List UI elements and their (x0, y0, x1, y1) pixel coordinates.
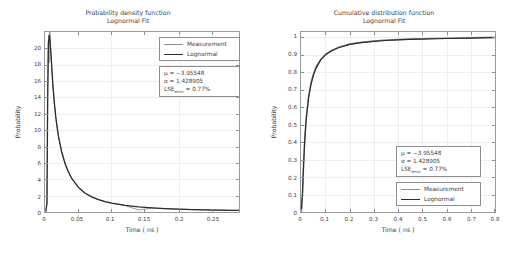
pdf-yaxis-label: Probability (14, 106, 21, 139)
cdf-ytick-right (492, 142, 495, 143)
pdf-legend-label: Lognormal (187, 51, 218, 57)
cdf-yticklabel: 0.4 (279, 139, 297, 145)
cdf-ytick-right (492, 177, 495, 178)
pdf-ytick (45, 147, 48, 148)
cdf-ytick (301, 195, 304, 196)
pdf-param-lse-sub: error (174, 89, 183, 94)
cdf-ytick-right (492, 125, 495, 126)
line-swatch-icon (401, 199, 420, 200)
lognormal-fit-figure: Probability density function Lognormal F… (0, 0, 512, 253)
pdf-xticklabel: 0 (42, 216, 46, 222)
pdf-xtick-top (212, 32, 213, 35)
cdf-yticklabel: 0.8 (279, 69, 297, 75)
cdf-xtick (374, 209, 375, 212)
pdf-param-sigma: σ = 1.428905 (160, 77, 239, 85)
pdf-panel: Probability density function Lognormal F… (0, 0, 256, 253)
pdf-xticklabel: 0.1 (106, 216, 115, 222)
pdf-param-lse-prefix: LSE (164, 86, 174, 92)
cdf-legend-row-lognormal: Lognormal (397, 194, 480, 204)
cdf-yticklabel: 0.3 (279, 157, 297, 163)
pdf-ytick (45, 179, 48, 180)
cdf-xticklabel: 0.7 (467, 216, 476, 222)
cdf-xtick-top (471, 32, 472, 35)
cdf-xtick (447, 209, 448, 212)
pdf-yticklabel: 4 (25, 177, 41, 183)
pdf-yticklabel: 20 (25, 45, 41, 51)
pdf-yticklabel: 14 (25, 94, 41, 100)
pdf-yticklabel: 6 (25, 160, 41, 166)
pdf-xticklabel: 0.15 (138, 216, 150, 222)
pdf-yticklabel: 0 (25, 210, 41, 216)
cdf-ytick (301, 160, 304, 161)
pdf-param-mu: μ = −3.95548 (160, 69, 239, 77)
cdf-xtick-top (422, 32, 423, 35)
cdf-xaxis-label: Time ( ns ) (381, 226, 414, 233)
pdf-xtick (111, 209, 112, 212)
cdf-param-mu: μ = −3.95548 (397, 149, 480, 157)
cdf-yticklabel: 0.6 (279, 104, 297, 110)
cdf-xtick-top (325, 32, 326, 35)
pdf-title-line1: Probability density function (85, 9, 170, 16)
cdf-yticklabel: 0.1 (279, 192, 297, 198)
cdf-legend[interactable]: Measurement Lognormal (396, 182, 481, 206)
line-swatch-icon (401, 189, 420, 190)
cdf-ytick (301, 212, 304, 213)
cdf-xticklabel: 0.6 (443, 216, 452, 222)
cdf-ytick-right (492, 195, 495, 196)
cdf-parameter-box[interactable]: μ = −3.95548 σ = 1.428905 LSEerror = 0.7… (396, 146, 481, 177)
pdf-title-line2: Lognormal Fit (0, 17, 256, 25)
pdf-ytick-right (236, 114, 239, 115)
pdf-xtick (212, 209, 213, 212)
cdf-xticklabel: 0 (298, 216, 302, 222)
cdf-xticklabel: 0.5 (418, 216, 427, 222)
pdf-xticklabel: 0.2 (175, 216, 184, 222)
line-swatch-icon (164, 44, 183, 45)
pdf-ytick (45, 114, 48, 115)
cdf-legend-label: Measurement (424, 186, 464, 192)
pdf-xtick-top (111, 32, 112, 35)
cdf-xtick (398, 209, 399, 212)
pdf-yticklabel: 12 (25, 111, 41, 117)
cdf-param-lse-value: = 0.77% (421, 166, 447, 172)
pdf-legend[interactable]: Measurement Lognormal (159, 37, 240, 61)
pdf-ytick (45, 163, 48, 164)
pdf-param-lse: LSEerror = 0.77% (160, 85, 239, 94)
pdf-ytick (45, 81, 48, 82)
cdf-xtick-top (447, 32, 448, 35)
pdf-xtick-top (179, 32, 180, 35)
cdf-param-lse-prefix: LSE (401, 166, 411, 172)
cdf-yticklabel: 1 (279, 33, 297, 39)
pdf-ytick-right (236, 163, 239, 164)
cdf-xticklabel: 0.8 (491, 216, 500, 222)
cdf-yticklabel: 0.2 (279, 175, 297, 181)
cdf-ytick (301, 177, 304, 178)
cdf-xtick (325, 209, 326, 212)
cdf-yticklabel: 0 (279, 210, 297, 216)
pdf-ytick (45, 48, 48, 49)
cdf-xtick-top (374, 32, 375, 35)
pdf-parameter-box[interactable]: μ = −3.95548 σ = 1.428905 LSEerror = 0.7… (159, 66, 240, 97)
cdf-param-lse-sub: error (411, 169, 420, 174)
cdf-yticklabel: 0.5 (279, 122, 297, 128)
cdf-title-line1: Cumulative distribution function (334, 9, 434, 16)
cdf-xticklabel: 0.1 (320, 216, 329, 222)
pdf-series-lognormal (46, 35, 239, 212)
cdf-ytick (301, 90, 304, 91)
cdf-ytick-right (492, 37, 495, 38)
cdf-xtick (350, 209, 351, 212)
pdf-ytick-right (236, 179, 239, 180)
cdf-ytick-right (492, 72, 495, 73)
cdf-legend-row-measurement: Measurement (397, 184, 480, 194)
cdf-xtick (422, 209, 423, 212)
pdf-xticklabel: 0.05 (71, 216, 83, 222)
cdf-ytick-right (492, 160, 495, 161)
cdf-yaxis-label: Probability (270, 106, 277, 139)
cdf-xticklabel: 0.4 (394, 216, 403, 222)
pdf-legend-row-lognormal: Lognormal (160, 49, 239, 59)
cdf-ytick (301, 72, 304, 73)
pdf-xtick-top (78, 32, 79, 35)
cdf-ytick-right (492, 107, 495, 108)
cdf-ytick (301, 142, 304, 143)
cdf-panel-title: Cumulative distribution function Lognorm… (256, 9, 512, 26)
cdf-legend-label: Lognormal (424, 196, 455, 202)
